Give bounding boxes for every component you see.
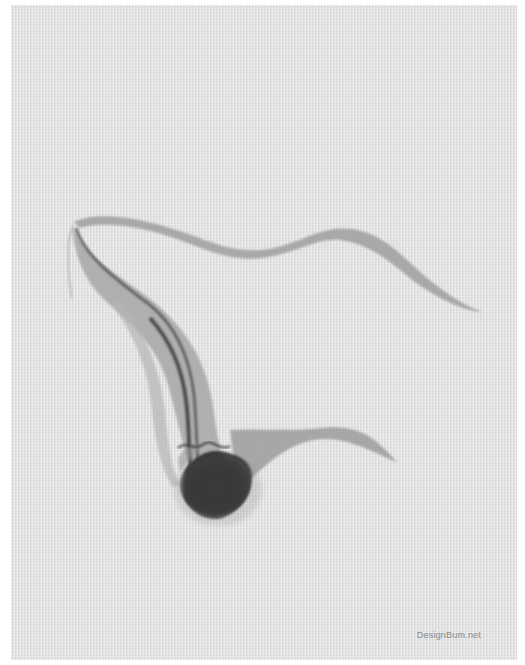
thin-strand	[68, 228, 72, 298]
ink-wisp-artwork	[0, 0, 525, 665]
watermark-text: DesignBum.net	[417, 630, 481, 640]
blob-halo	[174, 454, 262, 526]
